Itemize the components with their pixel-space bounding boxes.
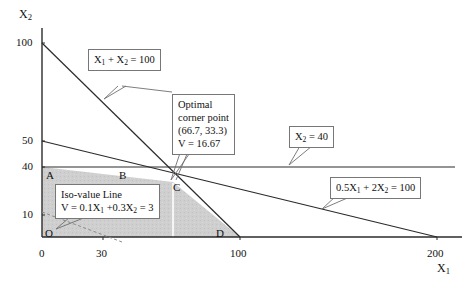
- y-tick-100: 100: [16, 37, 33, 48]
- y-axis-title: X2: [19, 8, 32, 22]
- constraint-1-callout: X1 + X2 = 100: [88, 49, 161, 71]
- iso-value-callout: Iso-value Line V = 0.1X1 +0.3X2 = 3: [55, 184, 160, 219]
- vertex-label-c: C: [173, 182, 180, 193]
- optimal-line-2: corner point: [178, 111, 229, 124]
- constraint-1-text: X1 + X2 = 100: [94, 53, 155, 67]
- y-tick-40: 40: [22, 161, 33, 172]
- vertex-label-d: D: [216, 228, 224, 239]
- x-axis-title: X1: [437, 262, 450, 276]
- y-tick-50: 50: [22, 135, 33, 146]
- x-tick-30: 30: [96, 248, 107, 259]
- constraint-2-callout: 0.5X1 + 2X2 = 100: [330, 177, 421, 199]
- linear-programming-chart: [0, 0, 474, 281]
- constraint-2-text: 0.5X1 + 2X2 = 100: [336, 181, 415, 195]
- optimal-point-callout: Optimal corner point (66.7, 33.3) V = 16…: [172, 94, 235, 155]
- vertex-label-b: B: [119, 170, 126, 181]
- vertex-label-o: O: [45, 228, 53, 239]
- iso-value-line-2: V = 0.1X1 +0.3X2 = 3: [61, 201, 154, 215]
- constraint-3-callout: X2 = 40: [289, 126, 334, 148]
- y-tick-10: 10: [22, 209, 33, 220]
- x-tick-0: 0: [39, 248, 45, 259]
- optimal-line-3: (66.7, 33.3): [178, 124, 229, 137]
- optimal-line-1: Optimal: [178, 98, 229, 111]
- x-tick-100: 100: [230, 248, 247, 259]
- optimal-line-4: V = 16.67: [178, 137, 229, 150]
- constraint-3-text: X2 = 40: [295, 130, 328, 144]
- vertex-label-a: A: [46, 170, 54, 181]
- iso-value-line-1: Iso-value Line: [61, 188, 154, 201]
- x-tick-200: 200: [427, 248, 444, 259]
